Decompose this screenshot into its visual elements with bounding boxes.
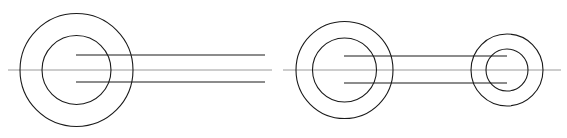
line-drawing-svg [0, 0, 567, 138]
right-view-group [283, 22, 561, 119]
left-view-group [8, 14, 272, 127]
drawing-canvas [0, 0, 567, 138]
